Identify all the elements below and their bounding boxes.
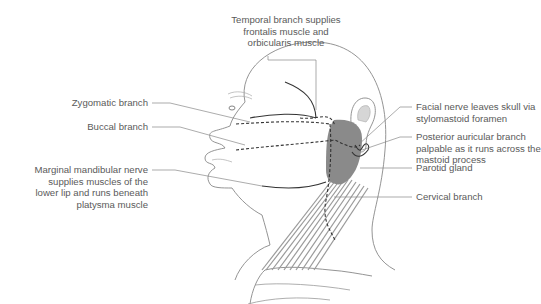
label-line: orbicularis muscle bbox=[210, 37, 362, 49]
label-line: Cervical branch bbox=[416, 191, 483, 203]
label-line: supplies muscles of the bbox=[4, 176, 148, 188]
label-zygomatic-branch: Zygomatic branch bbox=[40, 97, 148, 109]
ear-inner bbox=[358, 106, 371, 122]
face-profile bbox=[205, 102, 270, 280]
label-temporal-branch: Temporal branch supplies frontalis muscl… bbox=[210, 14, 362, 49]
mouth bbox=[212, 159, 232, 162]
label-line: Marginal mandibular nerve bbox=[4, 164, 148, 176]
eyebrow bbox=[228, 92, 252, 99]
label-line: Buccal branch bbox=[40, 121, 148, 133]
label-line: frontalis muscle and bbox=[210, 26, 362, 38]
label-line: Temporal branch supplies bbox=[210, 14, 362, 26]
label-line: Posterior auricular branch bbox=[416, 131, 541, 143]
label-facial-nerve: Facial nerve leaves skull via stylomasto… bbox=[416, 101, 535, 124]
platysma-muscle bbox=[262, 180, 368, 270]
label-line: Parotid gland bbox=[416, 162, 473, 174]
label-line: Facial nerve leaves skull via bbox=[416, 101, 535, 113]
label-buccal-branch: Buccal branch bbox=[40, 121, 148, 133]
label-posterior-auricular: Posterior auricular branch palpable as i… bbox=[416, 131, 541, 166]
label-line: palpable as it runs across the bbox=[416, 143, 541, 155]
collar-outline bbox=[248, 284, 350, 304]
label-cervical-branch: Cervical branch bbox=[416, 191, 483, 203]
label-line: Zygomatic branch bbox=[40, 97, 148, 109]
parotid-gland bbox=[326, 120, 362, 185]
label-line: platysma muscle bbox=[4, 199, 148, 211]
eye bbox=[229, 106, 235, 110]
label-parotid-gland: Parotid gland bbox=[416, 162, 473, 174]
label-line: lower lip and runs beneath bbox=[4, 187, 148, 199]
label-marginal-mandibular: Marginal mandibular nerve supplies muscl… bbox=[4, 164, 148, 210]
label-line: stylomastoid foramen bbox=[416, 113, 535, 125]
